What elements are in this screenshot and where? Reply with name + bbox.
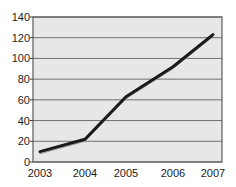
x-axis-label: 2006 (153, 168, 193, 179)
x-axis-label: 2004 (65, 168, 105, 179)
x-axis-label: 2003 (20, 168, 60, 179)
x-axis-label: 2005 (106, 168, 146, 179)
x-axis-label: 2007 (193, 168, 233, 179)
x-axis-labels: 20032004200520062007 (0, 0, 236, 187)
line-chart: 020406080100120140 20032004200520062007 (0, 0, 236, 187)
